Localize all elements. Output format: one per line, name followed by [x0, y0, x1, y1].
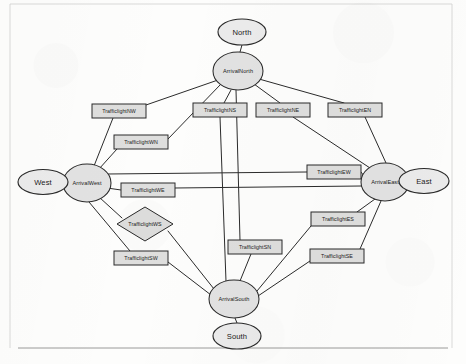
node-tlES-trafficlight[interactable]: TrafficlightES	[311, 212, 365, 226]
node-tlNS-trafficlight[interactable]: TrafficlightNS	[193, 103, 247, 117]
tlSW-label: TrafficlightSW	[124, 255, 157, 261]
node-tlWE-trafficlight[interactable]: TrafficlightWE	[121, 183, 175, 197]
arrivalWest-label: ArrivalWest	[72, 180, 101, 186]
edge-arrivalNorth-to-tlEN	[259, 79, 344, 103]
node-arrivalWest-arrival[interactable]: ArrivalWest	[63, 164, 111, 202]
arrivalSouth-label: ArrivalSouth	[218, 296, 249, 302]
tlSN-label: TrafficlightSN	[239, 244, 271, 250]
east-label: East	[416, 177, 432, 186]
edge-tlEW-to-arrivalWest	[108, 172, 307, 174]
tlNW-label: TrafficlightNW	[102, 108, 136, 114]
edge-arrivalNorth-to-tlNW	[146, 80, 218, 105]
edge-tlEN-to-arrivalEast	[365, 117, 386, 163]
node-south-terminal[interactable]: South	[213, 323, 261, 349]
node-arrivalNorth-arrival[interactable]: ArrivalNorth	[213, 52, 263, 90]
edge-tlWN-to-arrivalWest	[99, 149, 117, 169]
node-tlEW-trafficlight[interactable]: TrafficlightEW	[307, 165, 361, 179]
node-east-terminal[interactable]: East	[399, 169, 449, 194]
tlNS-label: TrafficlightNS	[204, 107, 237, 113]
node-tlNE-trafficlight[interactable]: TrafficlightNE	[256, 103, 310, 117]
edge-arrivalNorth-to-tlNE	[254, 84, 280, 103]
node-arrivalSouth-arrival[interactable]: ArrivalSouth	[209, 280, 259, 318]
north-label: North	[232, 28, 251, 37]
tlNE-label: TrafficlightNE	[267, 107, 300, 113]
tlEW-label: TrafficlightEW	[317, 169, 350, 175]
tlEN-label: TrafficlightEN	[339, 107, 371, 113]
edge-tlNW-to-arrivalWest	[94, 118, 113, 166]
tlSE-label: TrafficlightSE	[321, 253, 353, 259]
edge-arrivalEast-to-tlES	[357, 199, 375, 212]
node-tlSW-trafficlight[interactable]: TrafficlightSW	[114, 251, 168, 265]
edge-north-to-arrivalNorth	[240, 45, 242, 52]
edge-tlSE-to-arrivalSouth	[258, 261, 310, 296]
traffic-intersection-graph: TrafficlightNWTrafficlightWNTrafficlight…	[0, 0, 466, 364]
tlES-label: TrafficlightES	[322, 216, 354, 222]
edge-tlNS-to-arrivalSouth	[220, 117, 226, 281]
edge-arrivalSouth-to-tlSN	[240, 254, 251, 281]
node-north-terminal[interactable]: North	[218, 19, 266, 45]
edge-arrivalNorth-to-tlNS	[224, 90, 231, 103]
tlWE-label: TrafficlightWE	[131, 187, 165, 193]
node-tlWS-trafficlight[interactable]: TrafficlightWS	[117, 207, 173, 241]
node-tlWN-trafficlight[interactable]: TrafficlightWN	[114, 135, 168, 149]
edge-arrivalWest-to-tlWS	[99, 197, 122, 218]
edge-south-to-arrivalSouth	[235, 318, 237, 323]
edge-tlES-to-arrivalSouth	[257, 226, 311, 291]
node-tlSN-trafficlight[interactable]: TrafficlightSN	[228, 240, 282, 254]
edge-tlNE-to-arrivalEast	[293, 117, 370, 168]
scanned-page-canvas: TrafficlightNWTrafficlightWNTrafficlight…	[0, 0, 466, 364]
edge-tlWS-to-arrivalSouth	[168, 231, 214, 289]
tlWN-label: TrafficlightWN	[124, 139, 158, 145]
arrivalEast-label: ArrivalEast	[371, 179, 399, 185]
edge-tlWE-to-arrivalEast	[175, 186, 362, 188]
graph-nodes: TrafficlightNWTrafficlightWNTrafficlight…	[18, 19, 449, 349]
west-label: West	[34, 178, 52, 187]
arrivalNorth-label: ArrivalNorth	[223, 68, 253, 74]
south-label: South	[227, 332, 247, 341]
node-tlEN-trafficlight[interactable]: TrafficlightEN	[328, 103, 382, 117]
tlWS-label: TrafficlightWS	[128, 221, 162, 227]
node-tlSE-trafficlight[interactable]: TrafficlightSE	[310, 249, 364, 263]
node-tlNW-trafficlight[interactable]: TrafficlightNW	[92, 104, 146, 118]
node-west-terminal[interactable]: West	[18, 170, 68, 195]
edge-tlSW-to-arrivalSouth	[168, 262, 211, 295]
